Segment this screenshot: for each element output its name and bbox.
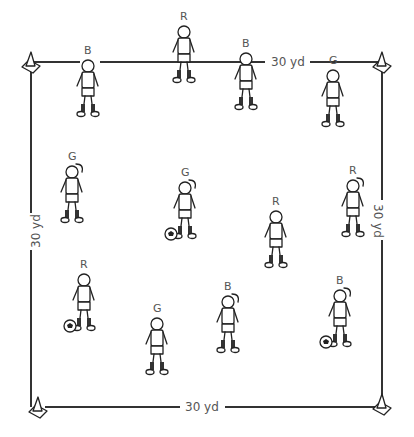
player-g: G bbox=[174, 166, 196, 239]
team-label: B bbox=[242, 37, 250, 50]
player-b: B bbox=[235, 37, 257, 110]
players-layer: B R B bbox=[61, 10, 364, 375]
team-label: G bbox=[68, 150, 77, 163]
team-label: G bbox=[153, 302, 162, 315]
team-label: B bbox=[224, 280, 232, 293]
top-dimension-label: 30 yd bbox=[271, 55, 305, 69]
team-label: B bbox=[336, 274, 344, 287]
player-b: B bbox=[329, 274, 351, 347]
cone-icon bbox=[373, 394, 391, 415]
player-r: R bbox=[342, 164, 364, 237]
soccer-ball-icon bbox=[320, 336, 332, 348]
player-r: R bbox=[73, 258, 95, 331]
player-g: G bbox=[322, 54, 344, 127]
soccer-ball-icon bbox=[64, 320, 76, 332]
team-label: G bbox=[181, 166, 190, 179]
team-label: R bbox=[272, 195, 280, 208]
player-r: R bbox=[173, 10, 195, 83]
team-label: G bbox=[329, 54, 338, 67]
soccer-ball-icon bbox=[165, 228, 177, 240]
player-r: R bbox=[265, 195, 287, 268]
team-label: B bbox=[84, 44, 92, 57]
player-g: G bbox=[61, 150, 83, 223]
player-b: B bbox=[77, 44, 99, 117]
team-label: R bbox=[180, 10, 188, 23]
left-dimension-label: 30 yd bbox=[29, 214, 43, 248]
team-label: R bbox=[349, 164, 357, 177]
right-dimension-label: 30 yd bbox=[371, 204, 385, 238]
team-label: R bbox=[80, 258, 88, 271]
player-g: G bbox=[146, 302, 168, 375]
bottom-dimension-label: 30 yd bbox=[185, 400, 219, 414]
player-b: B bbox=[217, 280, 239, 353]
drill-diagram: 30 yd 30 yd 30 yd 30 yd B R bbox=[0, 0, 414, 437]
